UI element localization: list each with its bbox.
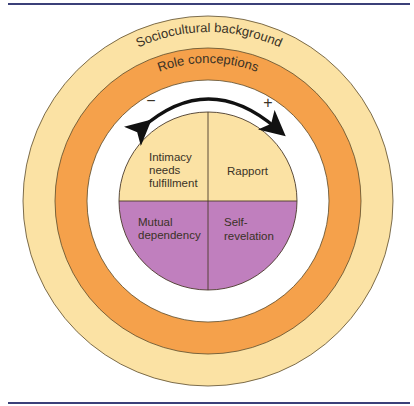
relationship-diagram: Sociocultural background Role conception… [0,0,414,406]
plus-sign: + [263,94,272,111]
quadrant-rapport-label: Rapport [227,165,269,177]
inner-circle [119,112,297,290]
minus-sign: − [146,92,155,109]
